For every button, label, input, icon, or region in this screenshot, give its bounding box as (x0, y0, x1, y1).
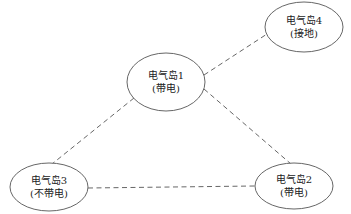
node-island1-label: 电气岛1 (带电) (148, 69, 184, 95)
node-island4-status: (接地) (286, 27, 322, 40)
node-island4-name: 电气岛4 (286, 14, 322, 27)
node-island2-name: 电气岛2 (276, 173, 312, 186)
edge-island1-island4 (204, 34, 267, 75)
node-island1-status: (带电) (148, 82, 184, 95)
node-island3-label: 电气岛3 (不带电) (30, 174, 68, 200)
node-island1-name: 电气岛1 (148, 69, 184, 82)
node-island3-status: (不带电) (30, 187, 68, 200)
node-island2-label: 电气岛2 (带电) (276, 173, 312, 199)
node-island4-label: 电气岛4 (接地) (286, 14, 322, 40)
edge-island3-island2 (88, 186, 255, 188)
node-island2-status: (带电) (276, 186, 312, 199)
edge-island1-island2 (204, 89, 291, 164)
node-island3-name: 电气岛3 (30, 174, 68, 187)
edge-island1-island3 (52, 98, 134, 164)
